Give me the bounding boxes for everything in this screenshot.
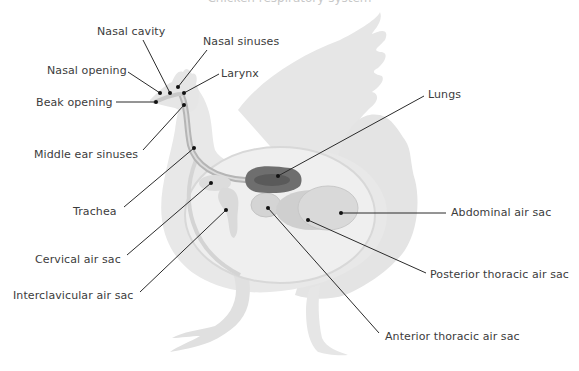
label-cervical-air-sac: Cervical air sac: [35, 253, 121, 266]
lungs-texture: [254, 174, 290, 186]
label-abdominal-air-sac: Abdominal air sac: [451, 206, 551, 219]
abdominal-air-sac-shape: [298, 186, 358, 230]
label-nasal-sinuses: Nasal sinuses: [203, 35, 279, 48]
label-nasal-opening: Nasal opening: [47, 64, 127, 77]
leader-dot-posterior-thoracic-air-sac: [306, 218, 310, 222]
leader-dot-middle-ear-sinuses: [182, 103, 186, 107]
leader-dot-nasal-cavity: [168, 91, 172, 95]
leader-dot-lungs: [276, 174, 280, 178]
leader-dot-anterior-thoracic-air-sac: [266, 206, 270, 210]
label-trachea: Trachea: [73, 205, 117, 218]
label-posterior-thoracic-air-sac: Posterior thoracic air sac: [430, 268, 569, 281]
leader-line-nasal-opening: [128, 72, 160, 93]
label-nasal-cavity: Nasal cavity: [97, 25, 165, 38]
anterior-thoracic-air-sac-shape: [251, 193, 281, 217]
label-interclavicular-air-sac: Interclavicular air sac: [13, 289, 133, 302]
label-anterior-thoracic-air-sac: Anterior thoracic air sac: [385, 330, 520, 343]
leader-dot-cervical-air-sac: [209, 181, 213, 185]
leader-dot-nasal-sinuses: [176, 85, 180, 89]
leader-dot-interclavicular-air-sac: [224, 208, 228, 212]
label-larynx: Larynx: [221, 67, 259, 80]
label-middle-ear-sinuses: Middle ear sinuses: [34, 148, 138, 161]
leader-dot-trachea: [192, 146, 196, 150]
head-shape: [150, 69, 199, 112]
leader-dot-nasal-opening: [158, 91, 162, 95]
chicken-respiratory-diagram: [0, 0, 579, 371]
label-lungs: Lungs: [428, 88, 461, 101]
leader-dot-larynx: [182, 91, 186, 95]
leader-dot-beak-opening: [154, 100, 158, 104]
leader-dot-abdominal-air-sac: [339, 211, 343, 215]
label-beak-opening: Beak opening: [36, 96, 113, 109]
